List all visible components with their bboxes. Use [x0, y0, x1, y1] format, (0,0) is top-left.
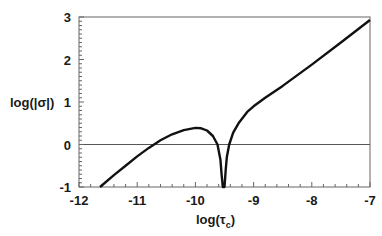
- plot-frame: [79, 17, 370, 187]
- y-axis-ticks: -10123: [59, 10, 84, 195]
- series-line: [100, 20, 370, 187]
- x-tick-label: -7: [364, 193, 376, 208]
- x-tick-label: -9: [248, 193, 260, 208]
- data-series: [100, 20, 370, 187]
- y-tick-label: 0: [64, 138, 71, 153]
- y-tick-label: 1: [64, 95, 71, 110]
- chart: -10123 -12-11-10-9-8-7 log(|σ|) log(τc): [0, 0, 382, 236]
- x-tick-label: -8: [306, 193, 318, 208]
- x-tick-label: -10: [186, 193, 205, 208]
- x-axis-label: log(τc): [196, 212, 235, 230]
- x-tick-label: -12: [70, 193, 89, 208]
- y-tick-label: 3: [64, 10, 71, 25]
- x-tick-label: -11: [128, 193, 146, 208]
- y-axis-label: log(|σ|): [10, 95, 54, 110]
- y-tick-label: 2: [64, 53, 71, 68]
- plot-border: [79, 17, 370, 187]
